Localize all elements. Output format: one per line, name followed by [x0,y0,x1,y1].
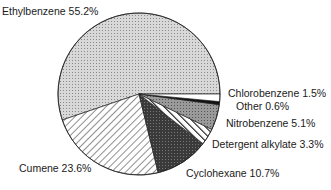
pie-slices [58,13,220,175]
label-cyclohexane: Cyclohexane 10.7% [186,167,279,179]
label-cumene: Cumene 23.6% [19,162,91,174]
label-other: Other 0.6% [236,100,289,112]
label-chlorobenzene: Chlorobenzene 1.5% [228,87,326,99]
label-ethylbenzene: Ethylbenzene 55.2% [2,5,98,17]
label-detergent-alkylate: Detergent alkylate 3.3% [212,138,323,150]
label-nitrobenzene: Nitrobenzene 5.1% [226,117,315,129]
